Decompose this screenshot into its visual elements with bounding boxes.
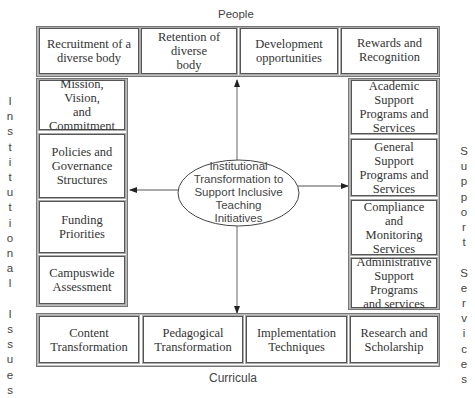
- right-box-compliance: Compliance and Monitoring Services: [351, 200, 437, 255]
- left-box-funding: Funding Priorities: [39, 201, 125, 253]
- left-box-assessment: Campuswide Assessment: [39, 256, 125, 304]
- right-box-administrative: Administrative Support Programs and serv…: [351, 258, 437, 308]
- bottom-box-content: Content Transformation: [39, 316, 139, 363]
- center-ellipse-text: Institutional Transformation to Support …: [178, 160, 299, 225]
- left-box-policies: Policies and Governance Structures: [39, 134, 125, 198]
- top-box-rewards: Rewards and Recognition: [341, 28, 438, 74]
- top-box-recruitment: Recruitment of a diverse body: [39, 28, 139, 74]
- bottom-box-pedagogical: Pedagogical Transformation: [143, 316, 243, 363]
- right-box-academic-support: Academic Support Programs and Services: [351, 80, 437, 134]
- top-box-retention: Retention of diverse body: [141, 28, 237, 74]
- top-box-development: Development opportunities: [240, 28, 338, 74]
- bottom-box-research: Research and Scholarship: [350, 316, 438, 363]
- bottom-box-implementation: Implementation Techniques: [246, 316, 347, 363]
- right-box-general-support: General Support Programs and Services: [351, 139, 437, 196]
- left-box-mission: Mission, Vision, and Commitment: [39, 80, 125, 130]
